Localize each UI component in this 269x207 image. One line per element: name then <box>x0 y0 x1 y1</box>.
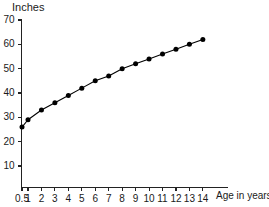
data-point-marker <box>133 61 138 66</box>
data-point-marker <box>52 100 57 105</box>
data-point-marker <box>106 73 111 78</box>
data-point-marker <box>173 47 178 52</box>
data-point-marker <box>93 78 98 83</box>
y-axis-tick-label: 30 <box>0 112 15 122</box>
y-axis-tick-label: 70 <box>0 15 15 25</box>
y-axis-tick-label: 50 <box>0 64 15 74</box>
data-point-marker <box>147 56 152 61</box>
data-point-marker <box>39 108 44 113</box>
y-axis-tick-label: 20 <box>0 137 15 147</box>
data-point-marker <box>187 42 192 47</box>
data-point-marker <box>200 37 205 42</box>
plot-area <box>0 0 269 207</box>
data-point-marker <box>79 86 84 91</box>
data-point-marker <box>20 125 25 130</box>
data-point-marker <box>160 52 165 57</box>
y-axis-tick-label: 60 <box>0 39 15 49</box>
x-axis-title: Age in years <box>216 190 269 202</box>
data-point-marker <box>66 93 71 98</box>
x-axis-tick-label: 14 <box>195 194 211 204</box>
data-series <box>20 37 206 130</box>
growth-chart: Inches 10203040506070 0.5123456789101112… <box>0 0 269 207</box>
data-point-marker <box>26 117 31 122</box>
data-point-marker <box>120 66 125 71</box>
y-axis-tick-label: 10 <box>0 161 15 171</box>
series-line <box>22 39 203 127</box>
y-axis-tick-label: 40 <box>0 88 15 98</box>
